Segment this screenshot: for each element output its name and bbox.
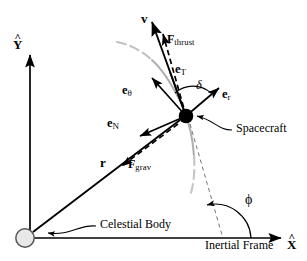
vector-f-thrust-label: Fthrust	[167, 33, 195, 46]
vector-r	[33, 120, 180, 232]
vector-r-label: r	[100, 156, 106, 169]
angle-delta-label: δ	[196, 79, 202, 92]
vector-v-label: v	[141, 12, 148, 25]
axis-x-label: ^X	[287, 238, 296, 251]
inertial-frame-label: Inertial Frame	[205, 239, 273, 251]
e-n-subscript: N	[113, 121, 120, 131]
spacecraft-diagram: ^Y ^X Inertial Frame Celestial Body Spac…	[0, 0, 307, 261]
vector-e-theta-label: eθ	[122, 84, 132, 98]
celestial-body-leader	[48, 226, 96, 234]
f-grav-subscript: grav	[135, 162, 151, 172]
x-hat-mark: ^	[288, 232, 294, 243]
vector-e-t-label: eT	[175, 63, 186, 77]
spacecraft-marker	[179, 109, 194, 124]
angle-phi-label: ϕ	[245, 193, 252, 207]
spacecraft-label: Spacecraft	[236, 122, 287, 134]
celestial-body-label: Celestial Body	[100, 218, 171, 230]
e-r-subscript: r	[228, 92, 231, 102]
y-hat-mark: ^	[14, 32, 20, 43]
f-thrust-subscript: thrust	[174, 37, 194, 47]
vector-e-r-label: er	[222, 88, 231, 102]
angle-phi-arc	[207, 204, 251, 238]
vector-e-n-label: eN	[107, 117, 119, 131]
e-theta-subscript: θ	[128, 88, 132, 98]
vector-f-grav-label: Fgrav	[128, 158, 151, 171]
angle-delta-arc	[175, 86, 211, 93]
spacecraft-leader	[197, 116, 232, 130]
radial-extension-line	[190, 124, 222, 235]
axis-y-label: ^Y	[13, 38, 22, 51]
celestial-body	[16, 229, 34, 247]
e-t-subscript: T	[181, 67, 187, 77]
